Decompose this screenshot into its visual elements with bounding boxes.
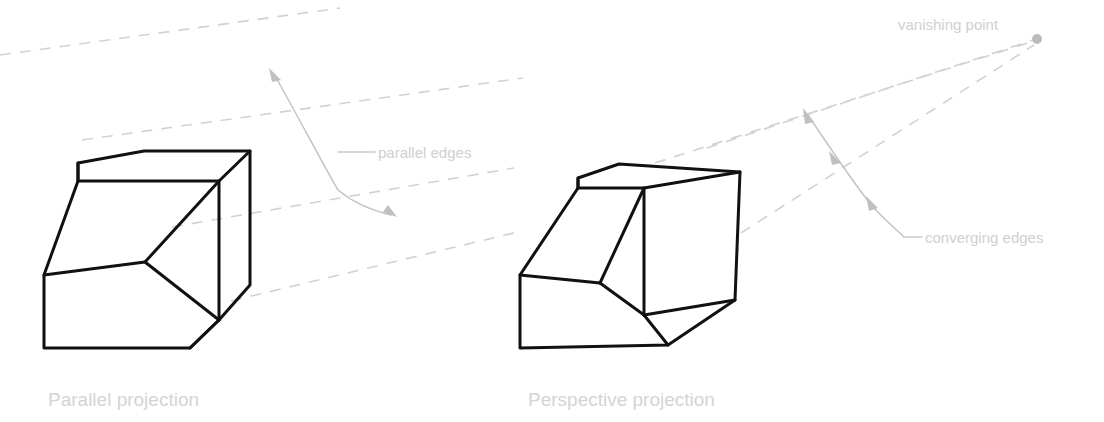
box-outline bbox=[520, 164, 740, 348]
converging-edges-span-arrow bbox=[803, 108, 903, 236]
bevel-edge-horizontal bbox=[44, 262, 145, 275]
caption-parallel-projection: Parallel projection bbox=[48, 389, 199, 410]
top-face-front-edge bbox=[78, 151, 250, 181]
caption-perspective-projection: Perspective projection bbox=[528, 389, 715, 410]
span-arrow-head-middle-2 bbox=[866, 196, 878, 211]
bevel-edge-bottom-diagonal bbox=[190, 320, 219, 348]
guide-line-4 bbox=[231, 231, 522, 301]
bevel-edge-left bbox=[600, 188, 644, 283]
bevel-edge-diagonal bbox=[600, 283, 644, 315]
parallel-edges-label: parallel edges bbox=[378, 144, 471, 161]
parallel-box-solid bbox=[44, 151, 250, 348]
projection-comparison-figure: parallel edges Parallel projection bbox=[0, 0, 1104, 422]
span-arrow-curve bbox=[274, 74, 391, 215]
span-arrow-curve bbox=[808, 115, 903, 236]
span-arrow-head-middle-1 bbox=[829, 151, 841, 165]
converging-guide-lines bbox=[655, 40, 1034, 233]
guide-line-2 bbox=[82, 78, 523, 140]
converging-line-3 bbox=[741, 45, 1034, 233]
bevel-edge-horizontal bbox=[520, 275, 600, 283]
panel-perspective-projection: converging edges vanishing point Perspec… bbox=[520, 16, 1043, 410]
vanishing-point-label: vanishing point bbox=[898, 16, 999, 33]
bevel-edge-bottom-diagonal bbox=[644, 315, 668, 345]
parallel-edges-annotation: parallel edges bbox=[338, 144, 471, 161]
vanishing-point-dot bbox=[1032, 34, 1042, 44]
perspective-box-solid bbox=[520, 164, 740, 348]
span-arrow-head-upper bbox=[803, 108, 814, 124]
guide-line-1 bbox=[0, 8, 340, 55]
parallel-edges-span-arrow bbox=[269, 68, 397, 217]
diagram-canvas: parallel edges Parallel projection bbox=[0, 0, 1104, 422]
converging-edges-annotation: converging edges bbox=[903, 229, 1043, 246]
top-face-front-edge bbox=[578, 172, 740, 188]
converging-edges-label: converging edges bbox=[925, 229, 1043, 246]
bevel-edge-diagonal bbox=[145, 262, 219, 320]
span-arrow-head-upper bbox=[269, 68, 281, 82]
panel-parallel-projection: parallel edges Parallel projection bbox=[0, 8, 523, 410]
bevel-edge-left bbox=[145, 181, 219, 262]
